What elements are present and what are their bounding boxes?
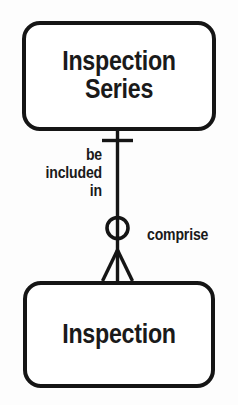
relationship-label-be-included-in: be included in: [25, 146, 102, 200]
relationship-label-comprise: comprise: [147, 226, 226, 244]
entity-inspection-label: Inspection: [62, 321, 176, 349]
entity-inspection[interactable]: Inspection: [23, 281, 215, 388]
er-diagram-canvas: Inspection Series Inspection be included…: [0, 0, 238, 405]
entity-inspection-series-label: Inspection Series: [62, 48, 176, 104]
cardinality-many-crowsfoot-icon: [103, 250, 133, 282]
entity-inspection-series[interactable]: Inspection Series: [22, 21, 216, 131]
